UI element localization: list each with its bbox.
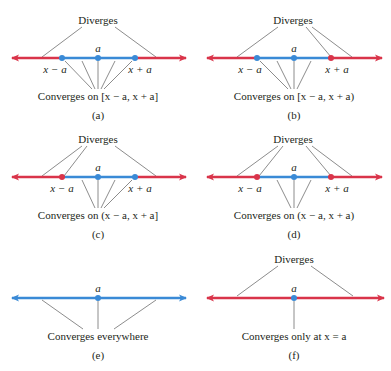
diverges-label: Diverges <box>273 133 313 145</box>
converges-label: Converges on (x − a, x + a] <box>38 209 158 222</box>
right-endpoint-dot <box>328 174 334 180</box>
panel-caption: (d) <box>288 228 301 241</box>
leader-line <box>259 146 283 176</box>
panel-caption: (f) <box>289 349 300 362</box>
leader-line <box>42 27 82 57</box>
panel-caption: (c) <box>92 228 105 241</box>
diverges-label: Diverges <box>78 133 118 145</box>
left-endpoint-label: x − a <box>237 182 262 194</box>
right-endpoint-label: x + a <box>127 182 152 194</box>
left-endpoint-dot <box>254 55 260 61</box>
power-series-convergence-figure: Diverges a x − a x + a Converges on [x −… <box>0 0 391 371</box>
panel-e: a Converges everywhere (e) <box>12 282 186 362</box>
center-label: a <box>95 282 101 294</box>
center-label: a <box>291 282 297 294</box>
center-label: a <box>95 161 101 173</box>
right-endpoint-label: x + a <box>324 63 349 75</box>
center-dot <box>95 55 101 61</box>
diverges-label: Diverges <box>78 14 118 26</box>
converges-label: Converges on [x − a, x + a] <box>38 90 158 102</box>
leader-line <box>82 180 95 208</box>
panel-caption: (b) <box>288 109 301 122</box>
center-dot <box>291 55 297 61</box>
leader-line <box>65 61 92 89</box>
diverges-label: Diverges <box>273 14 313 26</box>
panel-f: Diverges a Converges only at x = a (f) <box>207 253 384 362</box>
right-endpoint-label: x + a <box>127 63 152 75</box>
right-endpoint-label: x + a <box>324 182 349 194</box>
leader-line <box>114 300 156 329</box>
leader-line <box>42 300 83 329</box>
converges-label: Converges only at x = a <box>242 330 347 342</box>
left-endpoint-dot <box>254 174 260 180</box>
left-endpoint-dot <box>59 55 65 61</box>
panel-caption: (a) <box>92 109 105 122</box>
converges-label: Converges on (x − a, x + a) <box>234 209 355 222</box>
left-endpoint-label: x − a <box>42 63 67 75</box>
right-endpoint-dot <box>328 55 334 61</box>
left-endpoint-dot <box>59 174 65 180</box>
center-dot <box>291 174 297 180</box>
leader-line <box>297 61 311 89</box>
diverges-label: Diverges <box>274 253 314 265</box>
right-endpoint-dot <box>132 55 138 61</box>
panel-a: Diverges a x − a x + a Converges on [x −… <box>12 14 186 122</box>
leader-line <box>115 146 156 176</box>
panel-c: Diverges a x − a x + a Converges on (x −… <box>12 133 186 241</box>
panel-d: Diverges a x − a x + a Converges on (x −… <box>207 133 382 241</box>
leader-line <box>277 180 291 208</box>
left-endpoint-label: x − a <box>49 182 74 194</box>
center-dot <box>95 295 101 301</box>
center-label: a <box>95 42 101 54</box>
left-endpoint-label: x − a <box>237 63 262 75</box>
converges-label: Converges on [x − a, x + a) <box>234 90 355 103</box>
converges-label: Converges everywhere <box>48 330 149 342</box>
center-dot <box>291 295 297 301</box>
leader-line <box>297 180 311 208</box>
panel-caption: (e) <box>92 349 105 362</box>
leader-line <box>237 27 278 57</box>
leader-line <box>115 27 156 57</box>
center-label: a <box>291 42 297 54</box>
panel-b: Diverges a x − a x + a Converges on [x −… <box>207 14 382 122</box>
leader-line <box>311 266 353 296</box>
right-endpoint-dot <box>132 174 138 180</box>
center-dot <box>95 174 101 180</box>
leader-line <box>237 146 278 176</box>
leader-line <box>237 266 278 296</box>
center-label: a <box>291 161 297 173</box>
